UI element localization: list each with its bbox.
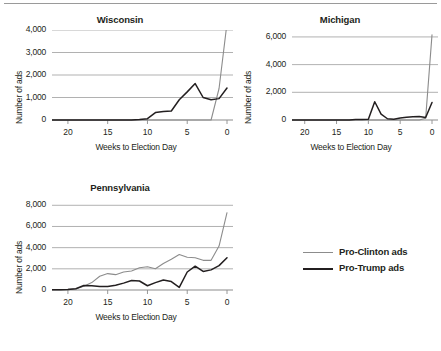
chart-panel-michigan: Michigan Number of ads Weeks to Election… bbox=[240, 14, 440, 164]
plot-area-wisconsin bbox=[52, 30, 241, 130]
x-tick-label-michigan-3: 5 bbox=[388, 127, 412, 137]
series-line-pennsylvania-pro-clinton bbox=[52, 213, 227, 290]
y-tick-label-wisconsin-3: 3,000 bbox=[6, 47, 46, 57]
plot-area-michigan bbox=[292, 30, 441, 130]
x-tick-label-wisconsin-1: 15 bbox=[96, 127, 120, 137]
x-tick-label-pennsylvania-0: 20 bbox=[56, 297, 80, 307]
chart-panel-wisconsin: Wisconsin Number of ads Weeks to Electio… bbox=[6, 14, 234, 164]
legend-item-pro-clinton: Pro-Clinton ads bbox=[303, 246, 433, 260]
y-tick-label-wisconsin-1: 1,000 bbox=[6, 92, 46, 102]
x-tick-label-michigan-4: 0 bbox=[420, 127, 441, 137]
legend-label-pro-trump: Pro-Trump ads bbox=[339, 262, 404, 273]
x-tick-label-wisconsin-0: 20 bbox=[56, 127, 80, 137]
y-tick-label-michigan-0: 0 bbox=[240, 114, 286, 124]
x-tick-label-wisconsin-4: 0 bbox=[215, 127, 239, 137]
chart-title-pennsylvania: Pennsylvania bbox=[6, 182, 234, 193]
series-line-pennsylvania-pro-trump bbox=[52, 258, 227, 290]
top-divider-rule bbox=[4, 3, 437, 4]
x-tick-label-michigan-2: 10 bbox=[356, 127, 380, 137]
x-tick-label-pennsylvania-3: 5 bbox=[175, 297, 199, 307]
y-tick-label-pennsylvania-1: 2,000 bbox=[6, 263, 46, 273]
y-tick-label-michigan-1: 2,000 bbox=[240, 86, 286, 96]
series-line-michigan-pro-clinton bbox=[292, 35, 432, 120]
chart-legend: Pro-Clinton ads Pro-Trump ads bbox=[303, 246, 433, 276]
legend-label-pro-clinton: Pro-Clinton ads bbox=[339, 246, 407, 257]
y-tick-label-pennsylvania-3: 6,000 bbox=[6, 220, 46, 230]
chart-panel-pennsylvania: Pennsylvania Number of ads Weeks to Elec… bbox=[6, 182, 234, 334]
figure-root: Wisconsin Number of ads Weeks to Electio… bbox=[0, 0, 441, 351]
legend-line-swatch-pro-clinton bbox=[303, 252, 333, 253]
legend-item-pro-trump: Pro-Trump ads bbox=[303, 262, 433, 276]
series-line-wisconsin-pro-trump bbox=[52, 84, 227, 120]
x-tick-label-pennsylvania-4: 0 bbox=[215, 297, 239, 307]
x-axis-label-michigan: Weeks to Election Day bbox=[262, 142, 440, 152]
y-tick-label-pennsylvania-2: 4,000 bbox=[6, 242, 46, 252]
chart-title-michigan: Michigan bbox=[240, 14, 440, 25]
x-tick-label-pennsylvania-2: 10 bbox=[135, 297, 159, 307]
y-tick-label-wisconsin-4: 4,000 bbox=[6, 24, 46, 34]
plot-area-pennsylvania bbox=[52, 200, 241, 300]
legend-line-swatch-pro-trump bbox=[303, 268, 333, 270]
y-tick-label-pennsylvania-4: 8,000 bbox=[6, 199, 46, 209]
x-axis-label-pennsylvania: Weeks to Election Day bbox=[41, 312, 231, 322]
x-tick-label-michigan-0: 20 bbox=[293, 127, 317, 137]
y-tick-label-pennsylvania-0: 0 bbox=[6, 284, 46, 294]
x-axis-label-wisconsin: Weeks to Election Day bbox=[41, 142, 231, 152]
y-tick-label-michigan-2: 4,000 bbox=[240, 59, 286, 69]
x-tick-label-wisconsin-3: 5 bbox=[175, 127, 199, 137]
series-line-michigan-pro-trump bbox=[292, 102, 432, 120]
x-tick-label-pennsylvania-1: 15 bbox=[96, 297, 120, 307]
x-tick-label-wisconsin-2: 10 bbox=[135, 127, 159, 137]
y-tick-label-wisconsin-0: 0 bbox=[6, 114, 46, 124]
y-tick-label-wisconsin-2: 2,000 bbox=[6, 69, 46, 79]
x-tick-label-michigan-1: 15 bbox=[325, 127, 349, 137]
y-tick-label-michigan-3: 6,000 bbox=[240, 31, 286, 41]
